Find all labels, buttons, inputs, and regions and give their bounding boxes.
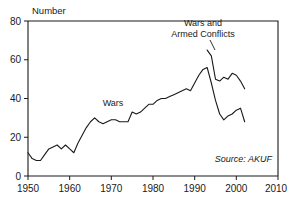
x-tick-label-1990: 1990 (184, 183, 207, 194)
annotation-wars-and-armed-conflicts-line1: Wars and (184, 18, 222, 28)
plot-frame (28, 21, 278, 176)
x-axis-ticks (28, 176, 278, 180)
x-tick-label-2010: 2010 (265, 183, 288, 194)
source-note: Source: AKUF (215, 154, 273, 164)
y-axis-ticks (24, 21, 28, 176)
y-tick-label-0: 0 (15, 171, 21, 182)
y-tick-label-60: 60 (10, 54, 22, 65)
x-tick-label-1950: 1950 (17, 183, 40, 194)
x-tick-label-2000: 2000 (225, 183, 248, 194)
x-tick-label-1960: 1960 (59, 183, 82, 194)
y-tick-label-40: 40 (10, 93, 22, 104)
annotation-leader-line (210, 40, 215, 50)
annotation-wars: Wars (103, 98, 124, 108)
series-line-wars-and-armed-conflicts (207, 50, 245, 89)
y-tick-label-20: 20 (10, 132, 22, 143)
y-tick-label-80: 80 (10, 16, 22, 27)
series-line-wars (28, 68, 245, 161)
annotation-wars-and-armed-conflicts-line2: Armed Conflicts (171, 29, 235, 39)
x-tick-label-1980: 1980 (142, 183, 165, 194)
chart-container: 80 60 40 20 0 1950 1960 1970 1980 1990 2… (0, 0, 289, 200)
x-tick-label-1970: 1970 (100, 183, 123, 194)
y-axis-title: Number (32, 5, 66, 16)
line-chart: 80 60 40 20 0 1950 1960 1970 1980 1990 2… (0, 0, 289, 200)
